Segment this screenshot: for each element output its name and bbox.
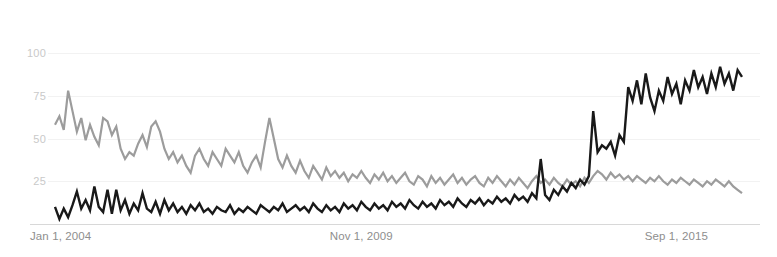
trends-chart-container: 255075100 Jan 1, 2004Nov 1, 2009Sep 1, 2… (0, 0, 777, 257)
y-tick-label-25: 25 (33, 175, 46, 187)
x-tick-label-1: Nov 1, 2009 (330, 230, 393, 242)
y-tick-label-75: 75 (33, 90, 46, 102)
trends-chart-svg: 255075100 Jan 1, 2004Nov 1, 2009Sep 1, 2… (0, 0, 777, 257)
y-tick-label-100: 100 (27, 47, 46, 59)
y-tick-label-50: 50 (33, 133, 46, 145)
x-tick-label-2: Sep 1, 2015 (645, 230, 708, 242)
x-tick-label-0: Jan 1, 2004 (30, 230, 92, 242)
